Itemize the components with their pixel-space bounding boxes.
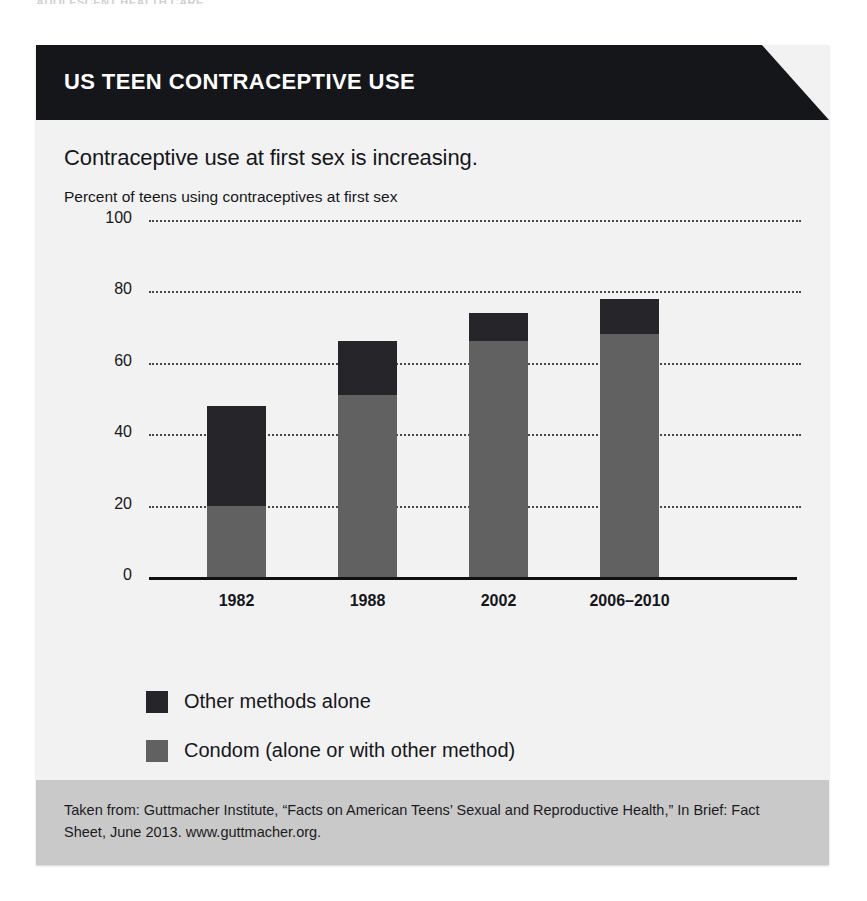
bar-2002[interactable] [469,313,528,577]
bar-segment-1982-condom[interactable] [207,506,266,577]
bar-1988[interactable] [338,341,397,577]
y-tick-label-100: 100 [64,209,132,227]
figure-footer: Taken from: Guttmacher Institute, “Facts… [36,780,829,865]
bar-segment-2002-condom[interactable] [469,341,528,577]
gridline-100 [149,220,801,222]
bar-segment-1988-condom[interactable] [338,395,397,577]
y-tick-label-0: 0 [64,566,132,584]
gridline-80 [149,291,801,293]
figure-card: US TEEN CONTRACEPTIVE USE Contraceptive … [36,45,829,865]
chart-body: Contraceptive use at first sex is increa… [36,120,829,780]
y-tick-label-80: 80 [64,280,132,298]
page-running-head: ADOLESCENT HEALTH CARE [36,0,204,4]
x-tick-label-2006–2010: 2006–2010 [570,592,690,610]
legend-swatch-condom [146,740,168,762]
chart-subtitle: Percent of teens using contraceptives at… [64,188,397,206]
legend-item-0[interactable]: Other methods alone [146,690,515,713]
legend-label-1: Condom (alone or with other method) [184,739,515,762]
y-tick-label-40: 40 [64,423,132,441]
x-tick-label-1988: 1988 [308,592,428,610]
legend-item-1[interactable]: Condom (alone or with other method) [146,739,515,762]
legend-label-0: Other methods alone [184,690,371,713]
chart-headline: Contraceptive use at first sex is increa… [64,145,478,171]
chart-legend: Other methods aloneCondom (alone or with… [146,690,515,788]
y-tick-label-60: 60 [64,352,132,370]
bar-2006–2010[interactable] [600,299,659,577]
x-axis-line [149,577,797,580]
plot-area: 020406080100 1982198820022006–2010 [64,220,801,580]
bar-segment-1988-other-methods[interactable] [338,341,397,395]
bar-segment-2002-other-methods[interactable] [469,313,528,342]
bar-segment-1982-other-methods[interactable] [207,406,266,506]
source-citation: Taken from: Guttmacher Institute, “Facts… [64,799,764,844]
x-tick-label-1982: 1982 [177,592,297,610]
figure-title: US TEEN CONTRACEPTIVE USE [64,69,415,95]
x-tick-label-2002: 2002 [439,592,559,610]
bar-1982[interactable] [207,406,266,577]
bar-segment-2006–2010-condom[interactable] [600,334,659,577]
bar-segment-2006–2010-other-methods[interactable] [600,299,659,335]
y-tick-label-20: 20 [64,495,132,513]
legend-swatch-other-methods [146,691,168,713]
